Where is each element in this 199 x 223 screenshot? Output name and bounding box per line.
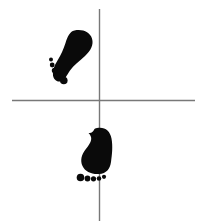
footprints-figure-canvas	[0, 0, 199, 223]
footprints-figure	[0, 0, 199, 223]
toe-2-dot	[85, 176, 91, 182]
toe-2-dot	[50, 63, 55, 68]
toe-5-dot	[60, 77, 68, 85]
toe-4-dot	[55, 73, 61, 79]
toe-3-dot	[52, 68, 57, 73]
toe-1-dot	[77, 174, 85, 182]
toe-4-dot	[97, 176, 102, 181]
toe-5-dot	[102, 175, 106, 179]
toe-1-dot	[49, 58, 53, 62]
toe-3-dot	[91, 176, 96, 181]
